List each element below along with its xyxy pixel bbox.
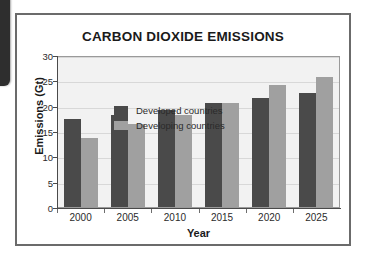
- bar-2000-developing: [81, 138, 98, 207]
- bar-2000-developed: [64, 119, 81, 207]
- bar-group: [299, 57, 333, 207]
- bar-2020-developing: [269, 85, 286, 207]
- y-axis-line: [57, 56, 58, 209]
- y-tick-mark: [53, 56, 57, 57]
- bar-group: [64, 57, 98, 207]
- x-axis-tick-labels: 200020052010201520202025: [57, 212, 340, 223]
- chart-title: CARBON DIOXIDE EMISSIONS: [17, 29, 349, 44]
- bar-2025-developing: [316, 77, 333, 207]
- y-tick-label: 15: [35, 127, 53, 138]
- plot-area: Developed countriesDeveloping countries: [57, 56, 340, 208]
- bar-2005-developing: [128, 124, 145, 207]
- y-tick-label: 20: [35, 101, 53, 112]
- x-tick-label: 2025: [296, 212, 336, 223]
- bar-2020-developed: [252, 98, 269, 207]
- y-tick-mark: [53, 81, 57, 82]
- chart-legend: Developed countriesDeveloping countries: [114, 105, 225, 135]
- clipped-dark-panel: [0, 0, 10, 86]
- bar-group: [252, 57, 286, 207]
- legend-item: Developed countries: [114, 105, 225, 116]
- y-tick-mark: [53, 157, 57, 158]
- x-tick-mark: [104, 209, 105, 213]
- legend-label: Developed countries: [136, 105, 223, 116]
- x-tick-label: 2000: [61, 212, 101, 223]
- y-tick-mark: [53, 132, 57, 133]
- x-tick-label: 2010: [155, 212, 195, 223]
- legend-swatch: [114, 106, 128, 115]
- x-tick-mark: [151, 209, 152, 213]
- x-tick-mark: [246, 209, 247, 213]
- x-tick-label: 2005: [108, 212, 148, 223]
- x-tick-label: 2020: [249, 212, 289, 223]
- legend-item: Developing countries: [114, 120, 225, 131]
- y-tick-mark: [53, 183, 57, 184]
- y-tick-label: 5: [35, 177, 53, 188]
- y-tick-label: 0: [35, 203, 53, 214]
- legend-swatch: [114, 121, 128, 130]
- x-tick-mark: [57, 209, 58, 213]
- y-tick-mark: [53, 107, 57, 108]
- legend-label: Developing countries: [136, 120, 225, 131]
- x-tick-mark: [199, 209, 200, 213]
- y-tick-label: 30: [35, 51, 53, 62]
- x-tick-mark: [293, 209, 294, 213]
- x-tick-label: 2015: [202, 212, 242, 223]
- bar-2025-developed: [299, 93, 316, 208]
- y-tick-label: 10: [35, 152, 53, 163]
- chart-card: CARBON DIOXIDE EMISSIONS Emissions (Gt) …: [15, 13, 351, 246]
- y-tick-label: 25: [35, 76, 53, 87]
- x-axis-title: Year: [57, 227, 340, 239]
